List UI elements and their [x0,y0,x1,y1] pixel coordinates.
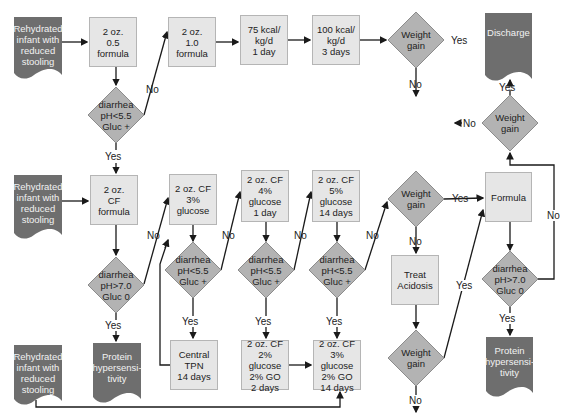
edge-label-no: No [409,79,422,90]
edge-label-no: No [147,230,160,241]
protein-hypersensitivity-node-1: Proteinhypersensi-tivity [93,343,141,405]
edge-label-yes: Yes [452,193,468,204]
start-node-1: Rehydratedinfant withreducedstooling [14,17,62,81]
edge-label-no: No [547,210,560,221]
edge-label-yes: Yes [255,316,271,327]
cf-4-glucose-box: 2 oz. CF4% glucose1 day [241,170,289,222]
diarrhea-diamond-3: diarrheapH<5.5Gluc + [165,242,221,298]
edge-label-yes: Yes [326,316,342,327]
cf-5-glucose-box: 2 oz. CF5% glucose14 days [312,170,360,222]
edge-label-no: No [409,236,422,247]
diarrhea-diamond-1: diarrheapH<5.5Gluc + [88,87,144,143]
edge-label-yes: Yes [182,316,198,327]
flowchart: Rehydratedinfant withreducedstooling Dis… [0,0,567,420]
edge-label-no: No [409,395,422,406]
kcal-100-box: 100 kcal/kg/d3 days [312,15,360,65]
start-node-2: Rehydratedinfant withreducedstooling [14,175,62,241]
protein-hypersensitivity-node-2: Proteinhypersensi-tivity [486,337,533,399]
edge-label-yes: Yes [105,151,121,162]
diarrhea-diamond-2: diarrheapH>7.0Gluc 0 [88,257,144,313]
treat-acidosis-box: TreatAcidosis [391,255,439,305]
edge-label-yes: Yes [499,82,515,93]
edge-label-yes: Yes [499,313,515,324]
cf-3-glucose-box: 2 oz. CF3% glucose [169,174,217,225]
weight-gain-diamond-3: Weightgain [388,330,444,386]
discharge-node: Discharge [485,13,532,83]
cf-3-glucose-go-box: 2 oz. CF3% glucose2% GO14 days [313,340,361,390]
formula-0-5-box: 2 oz.0.5 formula [89,17,137,67]
diarrhea-diamond-4: diarrheapH<5.5Gluc + [238,242,294,298]
cf-2-glucose-go-box: 2 oz. CF2% glucose2% GO2 days [241,340,289,390]
diarrhea-diamond-6: diarrheapH>7.0Gluc 0 [482,251,538,307]
kcal-75-box: 75 kcal/kg/d1 day [240,15,288,65]
edge-label-no: No [463,118,476,129]
edge-label-yes: Yes [105,320,121,331]
central-tpn-box: CentralTPN14 days [170,340,218,390]
formula-box: Formula [485,172,532,222]
edge-label-yes: Yes [451,35,467,46]
weight-gain-diamond-2: Weightgain [388,171,444,227]
edge-label-no: No [222,230,235,241]
edge-label-no: No [294,230,307,241]
edge-label-yes: Yes [456,280,472,291]
start-node-3: Rehydratedinfant withreducedstooling [14,345,62,407]
cf-formula-box: 2 oz.CF formula [90,175,138,225]
diarrhea-diamond-5: diarrheapH<5.5Gluc + [309,242,365,298]
weight-gain-diamond-top-right: Weightgain [482,95,538,151]
formula-1-0-box: 2 oz.1.0 formula [168,17,216,67]
weight-gain-diamond-1: Weightgain [388,12,444,68]
edge-label-no: No [366,230,379,241]
edge-label-no: No [146,84,159,95]
